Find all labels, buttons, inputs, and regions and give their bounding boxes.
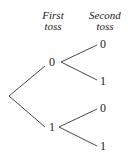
branch-1-to-0 (59, 109, 97, 127)
branch-0-to-0 (61, 45, 97, 62)
second-toss-1-1: 1 (100, 140, 106, 152)
branch-root-to-0 (9, 66, 45, 96)
branch-0-to-1 (61, 62, 97, 80)
second-toss-0-0: 0 (100, 38, 106, 50)
second-toss-1-0: 0 (100, 102, 106, 114)
header-second-toss: Second toss (85, 10, 125, 32)
header-first-toss: First toss (38, 10, 68, 32)
branch-1-to-1 (59, 127, 97, 146)
second-toss-0-1: 1 (100, 75, 106, 87)
first-toss-1: 1 (49, 121, 55, 133)
branch-root-to-1 (9, 96, 45, 127)
header-second-line2: toss (85, 21, 125, 32)
header-first-line2: toss (38, 21, 68, 32)
first-toss-0: 0 (49, 56, 55, 68)
